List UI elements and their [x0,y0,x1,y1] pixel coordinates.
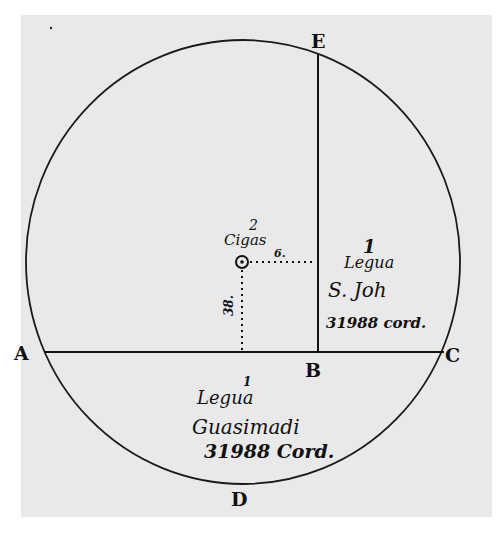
bottom-annotation: 1 Legua Guasimadi 31988 Cord. [192,375,334,462]
right-annotation: 1 Legua S. Joh 31988 cord. [326,236,426,332]
marker-label: Cigas [224,231,267,249]
target-marker-icon [236,256,248,268]
bottom-line2: Guasimadi [192,415,300,439]
bottom-line1: Legua [196,387,253,408]
label-point-b: B [305,359,321,381]
marker-label-superscript: 2 [248,217,258,233]
label-point-c: C [445,344,460,366]
geometry-diagram: E A C B D Cigas 2 6. 38. 1 Legua S. Joh … [0,0,496,533]
right-line2: S. Joh [328,278,387,302]
right-line1: Legua [343,253,394,272]
right-line3: 31988 cord. [326,314,426,332]
stray-dot [50,27,52,29]
label-point-d: D [231,488,247,510]
label-point-e: E [311,30,325,52]
label-point-a: A [13,342,29,364]
offset-vertical-label: 38. [222,295,236,316]
offset-horizontal-label: 6. [274,247,286,260]
bottom-line3: 31988 Cord. [204,440,334,462]
